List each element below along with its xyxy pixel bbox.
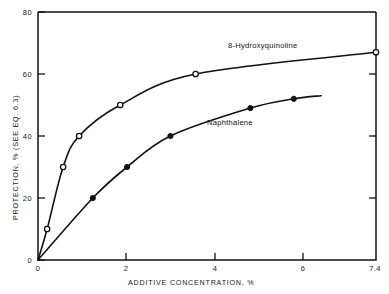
plot-area-svg [0,0,389,294]
x-tick-label-6: 6 [295,264,311,273]
data-point-filled [90,195,95,200]
data-point-open [193,71,198,76]
axis-frame [38,12,376,260]
x-tick-label-0: 0 [30,264,46,273]
x-tick-label-4: 4 [207,264,223,273]
data-point-open [44,226,49,231]
y-axis-ticks-right [369,74,376,198]
data-point-filled [124,164,129,169]
data-point-filled [248,106,253,111]
x-tick-label-7-4: 7.4 [365,264,385,273]
data-point-open [373,50,378,55]
y-tick-label-80: 80 [12,8,32,17]
chart-figure: 0 20 40 60 80 0 2 4 6 7.4 PROTECTION, % … [0,0,389,294]
x-axis-title: ADDITIVE CONCENTRATION, % [128,278,254,287]
x-tick-label-2: 2 [118,264,134,273]
y-tick-label-0: 0 [12,256,32,265]
y-axis-title: PROTECTION, % (SEE EQ. 6.3) [11,95,20,220]
y-axis-ticks [38,12,45,260]
series-label-naphthalene: Naphthalene [207,118,253,127]
data-point-open [76,133,81,138]
data-point-open [118,102,123,107]
data-point-filled [168,133,173,138]
series-8-hydroxyquinoline-markers [44,50,378,232]
x-axis-ticks [126,253,303,260]
series-label-8-hydroxyquinoline: 8-Hydroxyquinoline [228,41,298,50]
y-tick-label-60: 60 [12,70,32,79]
series-8-hydroxyquinoline-curve [38,52,376,260]
axis-frame-path [38,12,376,260]
data-point-filled [291,96,296,101]
series-naphthalene-markers [90,96,296,200]
series-naphthalene-curve [38,96,321,260]
data-point-open [60,164,65,169]
